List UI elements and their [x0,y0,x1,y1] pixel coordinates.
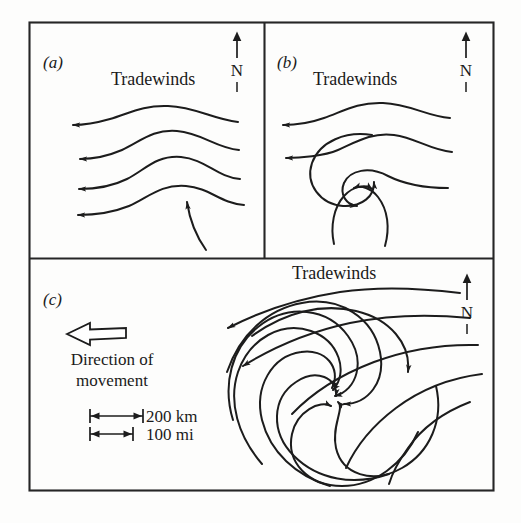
panel-a-north-label: N [231,61,243,80]
direction-of-movement-arrow-icon [67,323,126,345]
scale-bar-mi [90,427,133,441]
north-arrow-icon-c: N [461,274,473,335]
panel-c-label: (c) [43,290,62,309]
panel-c: (c) Tradewinds N Direction of movement [43,263,482,486]
panel-a: (a) Tradewinds N [43,32,244,251]
north-arrow-icon-a: N [231,32,243,93]
direction-of-movement-label-line2: movement [76,371,148,390]
hurricane-development-figure: (a) Tradewinds N (b) [0,0,521,523]
panel-b-north-label: N [460,61,472,80]
panel-a-streamlines [73,106,244,215]
scale-bar-mi-label: 100 mi [146,425,194,444]
scale-bar-km-label: 200 km [146,407,197,426]
panel-b-label: (b) [277,53,297,72]
panel-a-inflow-arrow [187,202,206,250]
panel-c-north-label: N [461,303,473,322]
panel-b-tradewinds-label: Tradewinds [313,69,397,89]
figure-container: (a) Tradewinds N (b) [0,0,521,523]
panel-c-spiral-arms [227,302,438,486]
panel-a-label: (a) [43,53,63,72]
panel-c-tradewinds-label: Tradewinds [292,263,376,283]
panel-b-streamlines [283,103,452,158]
panel-a-tradewinds-label: Tradewinds [111,69,195,89]
north-arrow-icon-b: N [460,32,472,93]
scale-bar-km [90,409,143,423]
panel-b-circulation [310,134,448,246]
direction-of-movement-label-line1: Direction of [71,350,154,369]
panel-b: (b) Tradewinds N [277,32,472,247]
